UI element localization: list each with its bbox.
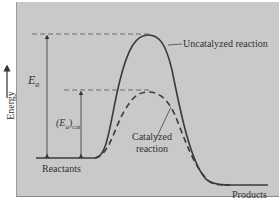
energy-diagram xyxy=(0,0,279,208)
ea-cat-label: (Ea)cat xyxy=(56,118,80,131)
ea-label: Ea xyxy=(28,74,39,89)
uncatalyzed-leader xyxy=(168,44,182,45)
catalyzed-label: Catalyzedreaction xyxy=(132,131,172,155)
products-label: Products xyxy=(232,190,267,200)
y-axis-label: Energy xyxy=(5,86,16,126)
uncatalyzed-label: Uncatalyzed reaction xyxy=(183,39,268,49)
reactants-label: Reactants xyxy=(42,164,81,174)
uncatalyzed-curve xyxy=(95,35,230,185)
